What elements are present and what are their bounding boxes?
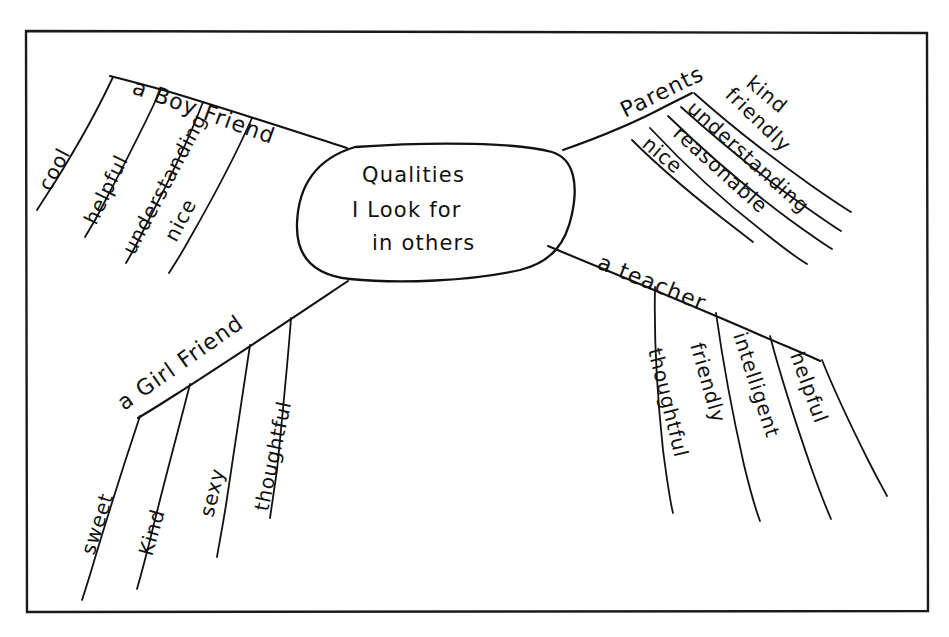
leaf-label-sweet: sweet [76, 490, 118, 558]
leaf-label-kind-gf: Kind [134, 506, 170, 558]
branch-label-teacher: a teacher [594, 249, 710, 315]
mindmap-canvas: Qualities I Look for in others a Boy Fri… [0, 0, 949, 637]
branch-label-girl-friend: a Girl Friend [113, 310, 248, 415]
branch-girl-friend: a Girl Friend sweet Kind sexy thoughtful [76, 281, 348, 600]
leaf-label-friendly-teacher: friendly [685, 340, 731, 426]
branch-teacher: a teacher helpful intelligent friendly t… [548, 246, 887, 521]
leaf-label-thoughtful-teacher: thoughtful [643, 345, 693, 459]
leaf-label-intelligent: intelligent [728, 329, 785, 440]
leaf-line-sexy [217, 345, 250, 557]
central-topic-line-1: Qualities [362, 163, 465, 187]
leaf-label-thoughtful-gf: thoughtful [249, 399, 296, 513]
central-topic-line-2: I Look for [352, 198, 462, 222]
central-topic-line-3: in others [372, 231, 476, 255]
leaf-line-helpful-teacher [822, 360, 887, 496]
leaf-label-cool: cool [33, 144, 75, 194]
branch-label-boy-friend: a Boy Friend [129, 74, 278, 149]
branch-parents: Parents kind friendly understanding reas… [563, 61, 851, 264]
leaf-label-helpful: helpful [79, 151, 133, 228]
mindmap-drawing: Qualities I Look for in others a Boy Fri… [0, 0, 949, 637]
